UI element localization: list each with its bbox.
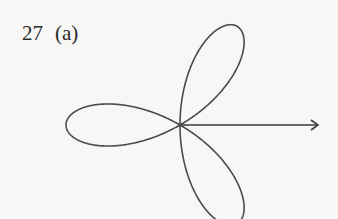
polar-axis (180, 120, 318, 130)
rose-petals (66, 25, 244, 219)
rose-curve-diagram (0, 0, 338, 219)
